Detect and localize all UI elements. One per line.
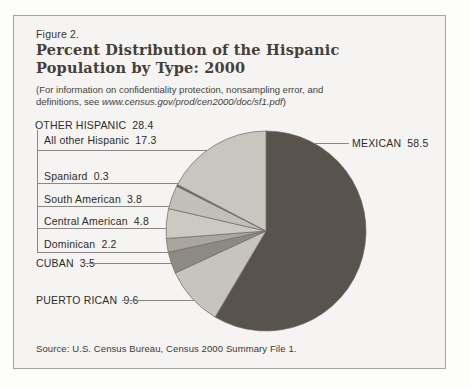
leader-line-dominican: [37, 252, 169, 253]
census-figure-page: Figure 2. Percent Distribution of the Hi…: [0, 0, 470, 387]
note-line2: definitions, see www.census.gov/prod/cen…: [36, 96, 366, 108]
label-cuban-text: CUBAN: [36, 257, 74, 269]
label-spaniard-value: 0.3: [94, 170, 109, 182]
leader-line-central-american: [37, 228, 166, 229]
figure-title: Percent Distribution of the Hispanic Pop…: [36, 41, 339, 77]
label-central-american-value: 4.8: [134, 215, 149, 227]
label-dominican-value: 2.2: [101, 238, 116, 250]
pie-chart: [161, 126, 371, 336]
confidentiality-note: (For information on confidentiality prot…: [36, 84, 366, 108]
note-line1: (For information on confidentiality prot…: [36, 84, 366, 96]
label-other-hispanic-text: OTHER HISPANIC: [35, 119, 126, 131]
label-mexican-text: MEXICAN: [352, 137, 401, 149]
label-south-american-value: 3.8: [127, 193, 142, 205]
note-line2-prefix: definitions, see: [36, 96, 102, 107]
leader-line-mexican: [314, 143, 349, 144]
label-all-other-hispanic-text: All other Hispanic: [44, 134, 129, 146]
figure-title-line2: Population by Type: 2000: [36, 59, 339, 77]
figure-number: Figure 2.: [36, 28, 79, 40]
leader-line-puerto-rican: [122, 300, 194, 301]
figure-title-line1: Percent Distribution of the Hispanic: [36, 41, 339, 59]
label-dominican-text: Dominican: [44, 238, 95, 250]
leader-line-cuban: [84, 263, 171, 264]
leader-line-spaniard: [37, 183, 179, 184]
label-mexican-value: 58.5: [407, 137, 428, 149]
leader-line-south-american: [37, 206, 169, 207]
label-south-american: South American3.8: [44, 193, 142, 205]
bracket-vertical-line: [37, 130, 38, 252]
label-all-other-hispanic-value: 17.3: [135, 134, 156, 146]
note-close-paren: ): [283, 96, 286, 107]
label-other-hispanic-value: 28.4: [132, 119, 153, 131]
label-all-other-hispanic: All other Hispanic17.3: [44, 134, 157, 146]
label-puerto-rican-text: PUERTO RICAN: [36, 294, 117, 306]
leader-line-all-other-hispanic: [37, 150, 207, 151]
source-note: Source: U.S. Census Bureau, Census 2000 …: [36, 343, 297, 354]
label-south-american-text: South American: [44, 193, 121, 205]
note-url: www.census.gov/prod/cen2000/doc/sf1.pdf: [102, 96, 283, 107]
label-dominican: Dominican2.2: [44, 238, 117, 250]
label-spaniard-text: Spaniard: [44, 170, 88, 182]
label-mexican: MEXICAN58.5: [352, 137, 429, 149]
label-other-hispanic: OTHER HISPANIC28.4: [35, 119, 154, 131]
label-central-american: Central American4.8: [44, 215, 149, 227]
label-central-american-text: Central American: [44, 215, 128, 227]
label-spaniard: Spaniard0.3: [44, 170, 109, 182]
